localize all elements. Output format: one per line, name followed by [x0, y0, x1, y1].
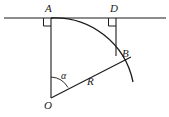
label-radius-r: R [87, 76, 94, 87]
geometry-figure: A D B R O α [0, 0, 169, 117]
label-point-o: O [44, 100, 52, 111]
right-angle-mark-a [44, 18, 52, 26]
label-angle-alpha: α [61, 71, 66, 81]
label-point-a: A [45, 3, 52, 14]
label-point-b: B [122, 48, 129, 59]
right-angle-mark-d [109, 18, 117, 26]
label-point-d: D [110, 3, 118, 14]
figure-canvas [0, 0, 169, 117]
